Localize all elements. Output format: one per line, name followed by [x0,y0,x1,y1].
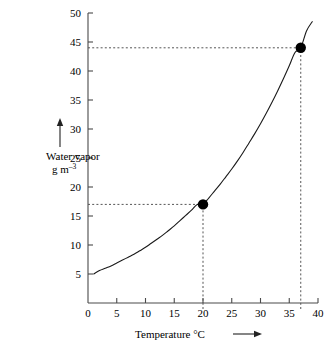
chart-container: 5101520253035404550 0510152025303540 Wat… [0,0,333,349]
y-tick-label-10: 10 [70,239,82,251]
x-tick-label-25: 25 [226,307,238,319]
x-axis-title: Temperature °C [135,328,205,340]
y-axis-title-line1: Water vapor [46,150,100,162]
x-tick-label-40: 40 [313,307,325,319]
x-tick-label-5: 5 [114,307,120,319]
y-axis-unit-superscript: –3 [68,162,77,171]
point-37c [296,43,306,53]
y-tick-label-30: 30 [70,123,82,135]
y-axis-unit-base: g m [52,163,69,175]
water-vapor-chart: 5101520253035404550 0510152025303540 Wat… [0,0,333,349]
x-tick-label-0: 0 [85,307,91,319]
y-tick-label-50: 50 [70,7,82,19]
y-tick-label-35: 35 [70,94,82,106]
y-tick-label-45: 45 [70,36,82,48]
chart-background [0,0,333,349]
y-tick-label-5: 5 [76,268,82,280]
x-tick-label-15: 15 [169,307,181,319]
y-tick-label-15: 15 [70,210,82,222]
y-tick-label-40: 40 [70,65,82,77]
y-tick-label-20: 20 [70,181,82,193]
x-tick-label-30: 30 [255,307,267,319]
point-20c [198,199,208,209]
x-tick-label-35: 35 [284,307,296,319]
x-tick-label-10: 10 [140,307,152,319]
